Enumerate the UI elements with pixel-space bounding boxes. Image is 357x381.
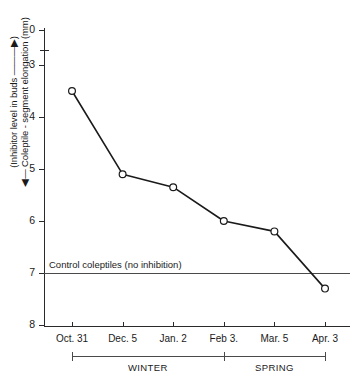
x-axis-tick-label: Dec. 5 [108,333,137,344]
data-series [44,28,350,327]
season-bracket-cap [325,352,326,361]
y-axis-tick-label: 8 [29,318,35,331]
y-axis-tick-label: 7 [29,266,35,279]
y-axis-tick-label: 3 [29,58,35,71]
y-axis-tick-label: 4 [29,110,35,123]
data-point-marker [170,184,177,191]
season-bracket-label: WINTER [128,362,168,373]
season-bracket-label: SPRING [255,362,294,373]
data-point-marker [271,228,278,235]
y-axis-tick-label: 5 [29,162,35,175]
series-markers [69,88,329,292]
x-axis-tick-label: Oct. 31 [56,333,88,344]
season-bracket-rule [72,356,224,357]
data-point-marker [322,285,329,292]
y-axis-tick-label: 0 [29,23,35,36]
x-axis-tick-label: Apr. 3 [312,333,338,344]
season-bracket-rule [224,356,325,357]
x-axis-tick-label: Mar. 5 [260,333,288,344]
data-point-marker [119,171,126,178]
data-point-marker [220,218,227,225]
series-line [72,91,325,289]
season-bracket-cap [224,352,225,361]
plot-area: 0345678 Oct. 31Dec. 5Jan. 2Feb 3.Mar. 5A… [44,28,350,327]
season-bracket-cap [72,352,73,361]
data-point-marker [69,88,76,95]
chart-figure: (Inhibitor level in buds ———▶) ◀— Colept… [0,0,357,381]
season-brackets: WINTERSPRING [44,352,350,381]
y-axis-label-line-1: (Inhibitor level in buds ———▶) [9,36,20,168]
x-axis-tick-label: Jan. 2 [160,333,187,344]
y-axis-tick-label: 6 [29,214,35,227]
x-axis-tick-label: Feb 3. [210,333,238,344]
